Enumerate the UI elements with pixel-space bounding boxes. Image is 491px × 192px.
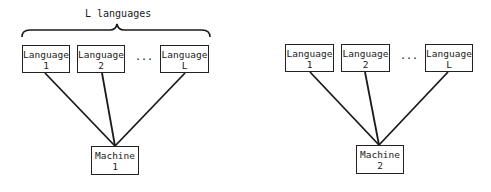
node-title: Language [426, 48, 472, 59]
node-title: Language [78, 49, 124, 60]
left-ellipsis: ... [135, 51, 153, 62]
right-language-2-node: Language 2 [341, 44, 390, 72]
node-index: L [426, 59, 472, 70]
machine-1-node: Machine 1 [91, 146, 139, 175]
left-language-l-node: Language L [160, 45, 209, 73]
right-ellipsis: ... [400, 50, 418, 61]
right-language-l-node: Language L [425, 44, 473, 72]
connector-lines [0, 0, 491, 192]
group-label-l-languages: L languages [85, 8, 151, 19]
node-index: 1 [286, 59, 333, 70]
node-index: 1 [92, 161, 138, 172]
machine-2-node: Machine 2 [356, 145, 404, 174]
node-index: 2 [357, 160, 403, 171]
node-index: L [161, 60, 208, 71]
node-title: Language [286, 48, 333, 59]
left-language-1-node: Language 1 [22, 45, 70, 73]
node-title: Language [342, 48, 389, 59]
node-title: Language [23, 49, 69, 60]
node-index: 1 [23, 60, 69, 71]
node-title: Machine [357, 149, 403, 160]
diagram-canvas: L languages Language 1 Language 2 ... La… [0, 0, 491, 192]
node-title: Machine [92, 150, 138, 161]
right-language-1-node: Language 1 [285, 44, 334, 72]
node-index: 2 [342, 59, 389, 70]
brace [22, 24, 210, 37]
node-index: 2 [78, 60, 124, 71]
left-language-2-node: Language 2 [77, 45, 125, 73]
node-title: Language [161, 49, 208, 60]
